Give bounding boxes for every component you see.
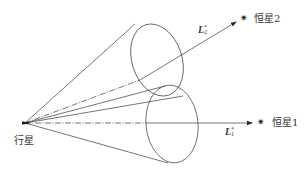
star1-marker-icon: ✷ (257, 118, 265, 127)
cone-upper-edge-bottom (25, 96, 183, 123)
star2-label: 恒星2 (254, 14, 280, 24)
cone-diagram (0, 0, 308, 174)
axis-star2 (25, 22, 236, 123)
line-label-l2: L*2 (198, 25, 207, 36)
planet-label: 行星 (14, 136, 34, 146)
star2-marker-icon: ✷ (240, 14, 248, 23)
cone-lower (25, 82, 202, 165)
star1-label: 恒星1 (272, 118, 298, 128)
cone-lower-ellipse (142, 82, 202, 165)
line-label-l2-sub: 2 (204, 30, 207, 35)
cone-upper (25, 17, 192, 123)
line-label-l1-sub: 1 (231, 132, 234, 137)
line-label-l1: L*1 (225, 127, 234, 138)
